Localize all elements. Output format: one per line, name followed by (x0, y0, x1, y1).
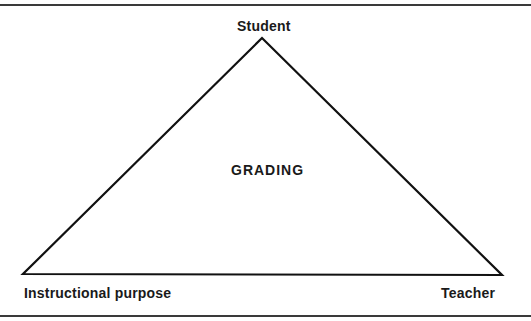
grading-triangle (0, 0, 531, 321)
vertex-label-top: Student (237, 18, 291, 34)
vertex-label-bottom-right: Teacher (441, 285, 495, 301)
vertex-label-bottom-left: Instructional purpose (24, 285, 171, 301)
triangle-shape (23, 38, 502, 275)
center-label: GRADING (231, 162, 304, 178)
bottom-rule (0, 315, 531, 317)
